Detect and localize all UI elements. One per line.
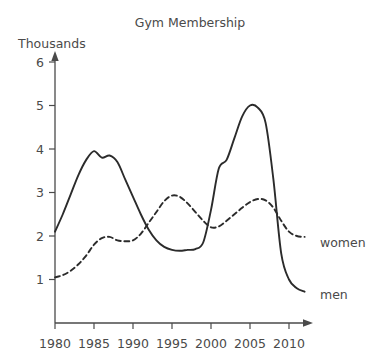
y-axis-unit-label: Thousands xyxy=(17,36,86,51)
y-tick-label-6: 6 xyxy=(36,55,44,70)
series-line-women xyxy=(55,195,305,277)
series-label-men: men xyxy=(320,287,348,302)
x-axis-arrowhead xyxy=(303,319,313,326)
series-label-women: women xyxy=(320,235,366,250)
gym-membership-chart: Gym Membership Thousands 1 2 3 4 5 6 xyxy=(0,0,383,364)
x-tick-label-2000: 2000 xyxy=(195,336,227,351)
x-axis-ticks xyxy=(55,323,289,329)
x-tick-label-2010: 2010 xyxy=(273,336,305,351)
x-tick-label-2005: 2005 xyxy=(234,336,266,351)
x-tick-label-1995: 1995 xyxy=(156,336,188,351)
series-line-men xyxy=(55,105,305,292)
y-tick-label-3: 3 xyxy=(36,185,44,200)
chart-canvas: Gym Membership Thousands 1 2 3 4 5 6 xyxy=(0,0,383,364)
x-tick-label-1990: 1990 xyxy=(117,336,149,351)
x-tick-label-1980: 1980 xyxy=(39,336,71,351)
y-tick-label-2: 2 xyxy=(36,229,44,244)
y-tick-label-4: 4 xyxy=(36,142,44,157)
y-axis-ticks xyxy=(49,62,55,280)
x-tick-label-1985: 1985 xyxy=(78,336,110,351)
y-axis xyxy=(51,51,58,323)
chart-title: Gym Membership xyxy=(135,15,246,30)
y-axis-arrowhead xyxy=(51,51,58,61)
y-tick-label-5: 5 xyxy=(36,98,44,113)
y-tick-label-1: 1 xyxy=(36,272,44,287)
